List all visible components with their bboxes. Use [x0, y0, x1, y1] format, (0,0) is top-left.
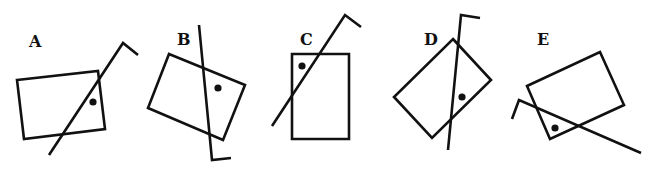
figure-e: E	[512, 30, 641, 153]
dot-marker	[214, 84, 221, 91]
figure-diagram: A B C D E	[0, 0, 657, 170]
figure-label-a: A	[28, 32, 42, 51]
hooked-line	[448, 15, 480, 150]
figure-a: A	[17, 32, 138, 155]
figure-label-b: B	[177, 30, 191, 49]
figure-c: C	[272, 15, 361, 139]
dot-marker	[89, 98, 96, 105]
figure-d: D	[394, 15, 491, 150]
hooked-line	[199, 25, 231, 160]
dot-marker	[551, 124, 558, 131]
rectangle-shape	[148, 54, 245, 140]
figure-label-e: E	[537, 30, 549, 49]
dot-marker	[298, 62, 305, 69]
figure-label-c: C	[300, 30, 313, 49]
dot-marker	[458, 93, 465, 100]
figure-label-d: D	[424, 30, 438, 49]
rectangle-shape	[394, 39, 491, 138]
hooked-line	[272, 15, 361, 126]
figure-b: B	[148, 25, 245, 160]
